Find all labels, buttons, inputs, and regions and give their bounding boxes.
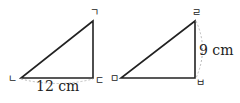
- vertex-label-r: ㄹ: [192, 7, 201, 18]
- triangles-diagram: ㄱ ㄴ ㄷ 12 cm ㄹ ㅁ ㅂ 9 cm: [0, 0, 240, 103]
- triangle-1: ㄱ ㄴ ㄷ 12 cm: [8, 7, 104, 94]
- measure-label-12cm: 12 cm: [36, 78, 79, 94]
- vertex-label-n: ㄴ: [8, 73, 17, 84]
- vertex-label-b: ㅂ: [196, 77, 205, 88]
- vertex-label-m: ㅁ: [110, 73, 119, 84]
- triangle-2-shape: [121, 21, 195, 78]
- vertex-label-g: ㄱ: [90, 7, 99, 18]
- triangle-2: ㄹ ㅁ ㅂ 9 cm: [110, 7, 233, 88]
- measure-label-9cm: 9 cm: [199, 42, 233, 58]
- vertex-label-d: ㄷ: [95, 75, 104, 86]
- triangle-1-shape: [21, 21, 93, 78]
